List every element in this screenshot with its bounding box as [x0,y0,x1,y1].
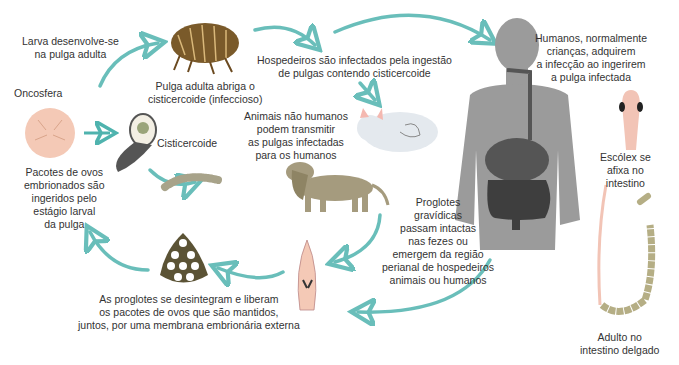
label-proglotes: Proglotes gravídicas passam intactas nas… [382,196,494,287]
label-adulto: Adulto no intestino delgado [580,331,659,357]
arrow-hosts-to-cat [360,83,375,100]
label-hospedeiros: Hospedeiros são infectados pela ingestão… [257,54,452,80]
egg-packet-icon [160,233,208,283]
proglottid-icon [298,240,316,310]
flea-icon [171,23,239,74]
oncosphere-icon [25,108,75,158]
label-pacotes: Pacotes de ovos embrionados são ingerido… [24,166,105,231]
label-oncosfera: Oncosfera [14,87,62,100]
cysticercoid-icon [116,114,156,172]
cat-icon [357,108,438,152]
label-cisticercoide: Cisticercoide [157,137,217,150]
label-larva: Larva desenvolve-se na pulga adulta [22,35,119,61]
arrow-eggs-to-pacotes [90,232,148,270]
arrow-flea-to-hosts [255,27,315,45]
label-desintegram: As proglotes se desintegram e liberam os… [78,293,300,332]
adult-worm-icon [599,185,652,311]
label-pulga: Pulga adulta abriga o cisticercoide (inf… [148,80,262,106]
dog-icon [286,162,388,212]
label-escolex: Escólex se afixa no intestino [600,151,651,190]
label-humanos: Humanos, normalmente crianças, adquirem … [535,32,647,84]
arrow-dog-to-proglottid [335,215,380,262]
label-animais: Animais não humanos podem transmitir as … [244,110,348,162]
scolex-icon [619,90,643,150]
arrow-proglottid-to-eggs [218,268,283,278]
arrow-hosts-to-human-top [335,15,490,40]
